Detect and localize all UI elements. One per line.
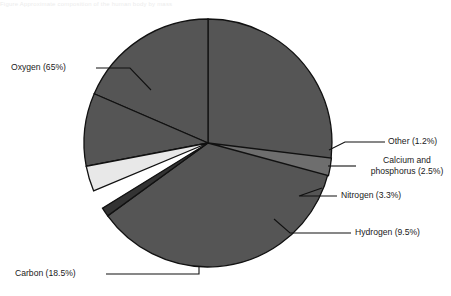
pie-label-calcium-phosphorus: Calcium andphosphorus (2.5%) <box>359 155 451 176</box>
pie-label-nitrogen: Nitrogen (3.3%) <box>341 190 401 201</box>
pie-label-carbon: Carbon (18.5%) <box>15 268 76 279</box>
leader-line-carbon <box>106 266 199 274</box>
pie-label-oxygen: Oxygen (65%) <box>11 62 66 73</box>
leader-line-other <box>329 142 385 150</box>
pie-label-calcium-phosphorus-line1: Calcium and <box>383 155 431 165</box>
pie-label-other: Other (1.2%) <box>388 136 437 147</box>
pie-label-hydrogen: Hydrogen (9.5%) <box>355 227 420 238</box>
pie-label-calcium-phosphorus-line2: phosphorus (2.5%) <box>371 166 444 176</box>
pie-chart-figure: Figure Approximate composition of the hu… <box>0 0 451 296</box>
pie-chart-canvas <box>0 0 451 296</box>
